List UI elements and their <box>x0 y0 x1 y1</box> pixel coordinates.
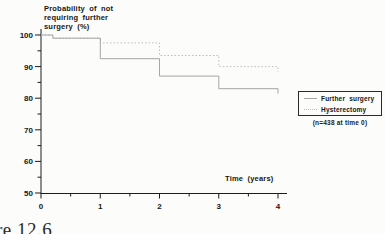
figure-caption: re 12.6 <box>0 219 52 234</box>
solid-line-swatch-icon <box>304 98 317 99</box>
y-tick-label: 100 <box>20 31 34 40</box>
legend-item-further-surgery: Further surgery <box>304 94 381 103</box>
y-tick-label: 60 <box>24 157 33 166</box>
x-tick-label: 4 <box>276 202 281 211</box>
legend-label: Hysterectomy <box>321 106 366 113</box>
legend-label: Further surgery <box>321 95 374 102</box>
axis-ticks: 100908070605001234 <box>20 31 281 211</box>
y-tick-label: 90 <box>24 63 33 72</box>
dotted-line-swatch-icon <box>304 109 317 110</box>
x-axis-title: Time (years) <box>225 174 285 183</box>
plot-area: 100908070605001234 <box>0 0 385 234</box>
sample-size-note: (n=438 at time 0) <box>297 119 383 126</box>
x-tick-label: 0 <box>39 202 44 211</box>
y-tick-label: 80 <box>24 94 33 103</box>
x-tick-label: 1 <box>98 202 103 211</box>
figure-page: Probability of not requiring further sur… <box>0 0 385 234</box>
x-tick-label: 2 <box>157 202 162 211</box>
y-tick-label: 50 <box>24 189 33 198</box>
y-tick-label: 70 <box>24 126 33 135</box>
series-curves <box>41 35 278 94</box>
legend-box: Further surgeryHysterectomy <box>298 91 382 116</box>
legend-item-hysterectomy: Hysterectomy <box>304 105 381 114</box>
x-tick-label: 3 <box>217 202 222 211</box>
